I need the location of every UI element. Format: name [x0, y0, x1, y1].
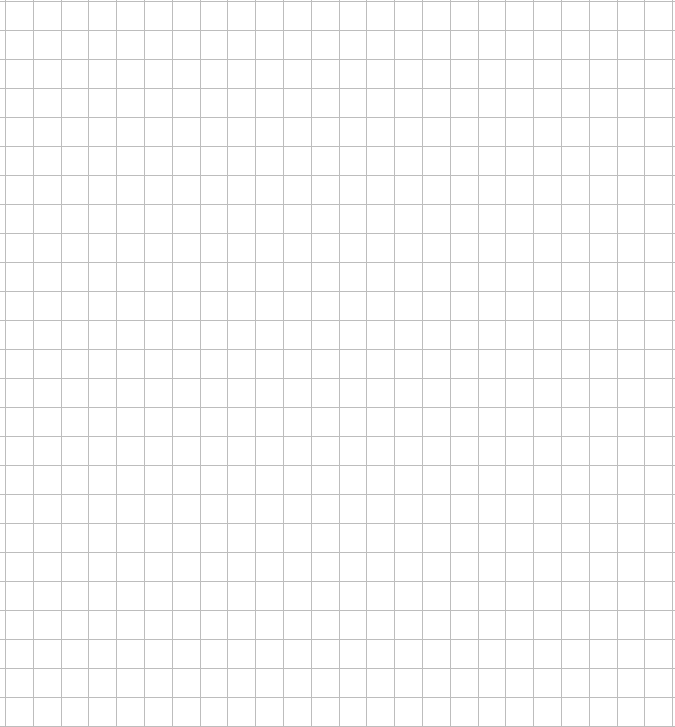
- grid-background: [0, 0, 675, 727]
- graph-paper-grid: [0, 0, 675, 727]
